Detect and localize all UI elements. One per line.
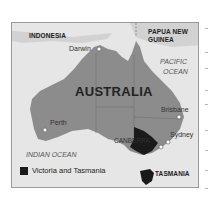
indonesia-label: INDONESIA (29, 33, 66, 40)
perth-label: Perth (50, 119, 67, 126)
legend-label: Victoria and Tasmania (32, 166, 106, 175)
edge-tick (205, 170, 208, 171)
edge-tick (205, 130, 208, 131)
darwin-label: Darwin (69, 45, 91, 52)
pacific-ocean-label-line2: OCEAN (163, 68, 188, 75)
tasmania-label: TASMANIA (155, 171, 190, 178)
edge-tick (205, 104, 208, 105)
map-frame: INDONESIA PAPUA NEW GUINEA Darwin PACIFI… (11, 22, 199, 188)
canberra-label: CANBERRA (114, 138, 150, 145)
tasmania-region (140, 169, 154, 185)
edge-ticks (205, 0, 211, 210)
edge-tick (205, 52, 208, 53)
sydney-label: Sydney (170, 131, 193, 138)
canberra-marker (159, 145, 163, 149)
legend: Victoria and Tasmania (20, 166, 106, 175)
edge-tick (205, 150, 208, 151)
perth-marker (43, 128, 47, 132)
edge-tick (205, 68, 208, 69)
darwin-marker (97, 47, 101, 51)
australia-label: AUSTRALIA (75, 85, 153, 98)
brisbane-marker (177, 115, 181, 119)
edge-tick (205, 188, 208, 189)
brisbane-label: Brisbane (161, 106, 189, 113)
pacific-ocean-label-line1: PACIFIC (160, 58, 187, 65)
png-label-line2: GUINEA (148, 37, 174, 44)
png-label-line1: PAPUA NEW (148, 29, 188, 36)
indian-ocean-label: INDIAN OCEAN (26, 151, 77, 158)
legend-swatch (20, 167, 28, 175)
sydney-marker (166, 140, 170, 144)
edge-tick (205, 90, 208, 91)
edge-tick (205, 28, 208, 29)
